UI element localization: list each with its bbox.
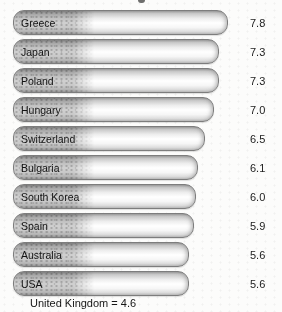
bar-row-poland: Poland 7.3 <box>13 68 282 93</box>
bar-row-greece: Greece 7.8 <box>13 10 282 35</box>
bar-row-south-korea: South Korea 6.0 <box>13 184 282 209</box>
bar-value-australia: 5.6 <box>250 242 265 267</box>
bar-label-south-korea: South Korea <box>21 191 79 203</box>
bar-label-spain: Spain <box>21 220 48 232</box>
bar-label-poland: Poland <box>21 75 54 87</box>
bar-label-australia: Australia <box>21 249 62 261</box>
bar-value-poland: 7.3 <box>250 68 265 93</box>
bar-spain: Spain <box>13 213 194 238</box>
bar-row-australia: Australia 5.6 <box>13 242 282 267</box>
cropped-title-fragment <box>138 0 145 3</box>
bar-switzerland: Switzerland <box>13 126 205 151</box>
bar-bulgaria: Bulgaria <box>13 155 198 180</box>
bar-australia: Australia <box>13 242 189 267</box>
bar-label-hungary: Hungary <box>21 104 61 116</box>
bar-row-japan: Japan 7.3 <box>13 39 282 64</box>
bar-value-bulgaria: 6.1 <box>250 155 265 180</box>
bar-value-greece: 7.8 <box>250 10 265 35</box>
bar-poland: Poland <box>13 68 219 93</box>
bar-label-switzerland: Switzerland <box>21 133 75 145</box>
bar-label-greece: Greece <box>21 17 55 29</box>
bar-row-usa: USA 5.6 <box>13 271 282 296</box>
bar-value-usa: 5.6 <box>250 271 265 296</box>
bar-value-spain: 5.9 <box>250 213 265 238</box>
bar-hungary: Hungary <box>13 97 214 122</box>
bar-value-hungary: 7.0 <box>250 97 265 122</box>
bar-greece: Greece <box>13 10 228 35</box>
bar-usa: USA <box>13 271 189 296</box>
bar-row-bulgaria: Bulgaria 6.1 <box>13 155 282 180</box>
bar-label-bulgaria: Bulgaria <box>21 162 60 174</box>
bar-south-korea: South Korea <box>13 184 196 209</box>
bar-label-usa: USA <box>21 278 43 290</box>
bar-value-south-korea: 6.0 <box>250 184 265 209</box>
bar-row-spain: Spain 5.9 <box>13 213 282 238</box>
bar-row-switzerland: Switzerland 6.5 <box>13 126 282 151</box>
footnote-united-kingdom: United Kingdom = 4.6 <box>30 297 136 309</box>
bar-label-japan: Japan <box>21 46 50 58</box>
bar-row-hungary: Hungary 7.0 <box>13 97 282 122</box>
bar-japan: Japan <box>13 39 219 64</box>
bar-value-switzerland: 6.5 <box>250 126 265 151</box>
bar-value-japan: 7.3 <box>250 39 265 64</box>
horizontal-bar-chart: Greece 7.8 Japan 7.3 Poland 7.3 Hungary … <box>0 0 282 312</box>
